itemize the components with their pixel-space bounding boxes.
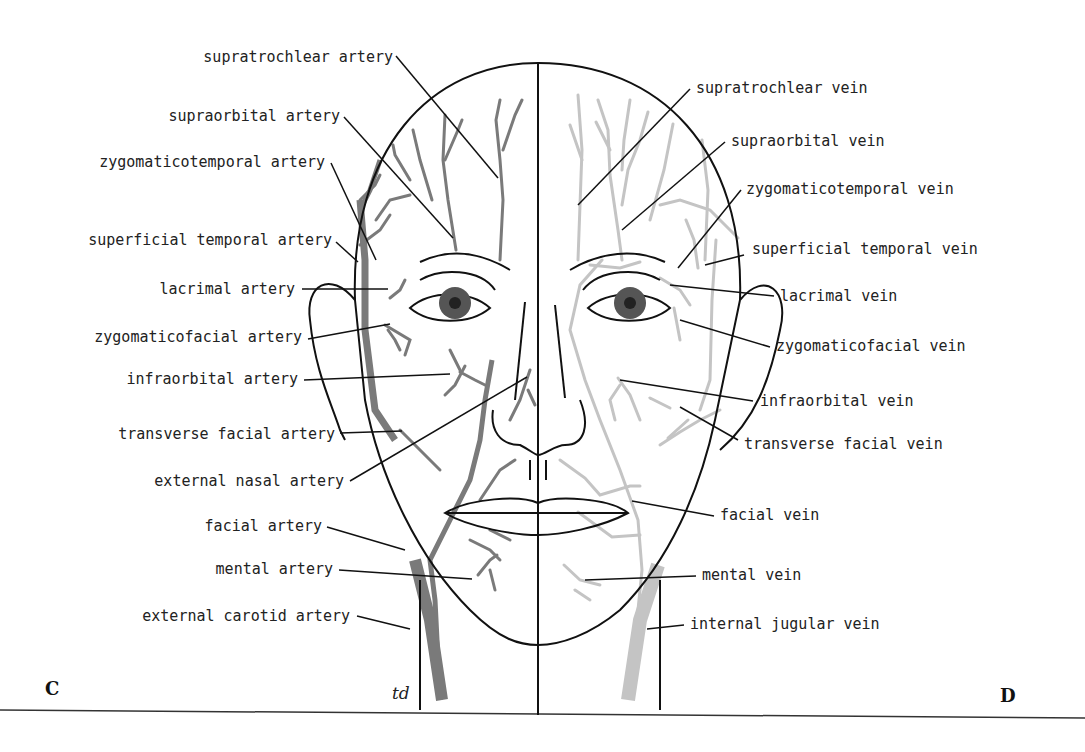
label-external-nasal-artery: external nasal artery [154,472,344,490]
label-facial-vein: facial vein [720,506,819,524]
label-zygomaticotemporal-artery: zygomaticotemporal artery [99,153,325,171]
label-zygomaticofacial-artery: zygomaticofacial artery [94,328,302,346]
label-supratrochlear-vein: supratrochlear vein [696,79,868,97]
artist-signature: td [392,683,410,703]
label-transverse-facial-vein: transverse facial vein [744,435,943,453]
panel-label-c: C [45,678,59,699]
label-superficial-temporal-vein: superficial temporal vein [752,240,978,258]
label-infraorbital-vein: infraorbital vein [760,392,914,410]
arteries [360,100,535,590]
label-transverse-facial-artery: transverse facial artery [118,425,335,443]
label-facial-artery: facial artery [205,517,322,535]
bottom-rule [0,710,1085,718]
label-zygomaticofacial-vein: zygomaticofacial vein [776,337,966,355]
veins [560,95,738,640]
label-mental-artery: mental artery [216,560,333,578]
label-internal-jugular-vein: internal jugular vein [690,615,880,633]
label-external-carotid-artery: external carotid artery [142,607,350,625]
panel-label-d: D [1000,685,1016,706]
label-superficial-temporal-artery: superficial temporal artery [88,231,332,249]
label-mental-vein: mental vein [702,566,801,584]
label-lacrimal-vein: lacrimal vein [780,287,897,305]
label-supraorbital-artery: supraorbital artery [168,107,340,125]
label-infraorbital-artery: infraorbital artery [126,370,298,388]
label-supraorbital-vein: supraorbital vein [731,132,885,150]
label-zygomaticotemporal-vein: zygomaticotemporal vein [746,180,954,198]
label-lacrimal-artery: lacrimal artery [160,280,295,298]
label-supratrochlear-artery: supratrochlear artery [203,48,393,66]
